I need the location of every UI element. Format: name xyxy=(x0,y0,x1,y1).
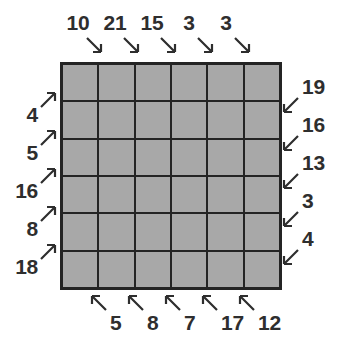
grid-cell[interactable] xyxy=(99,252,133,287)
arrow-southwest-icon xyxy=(281,133,301,153)
grid-cell[interactable] xyxy=(99,140,133,175)
grid-cell[interactable] xyxy=(208,252,242,287)
clue-number-right-4: 3 xyxy=(302,190,342,212)
arrow-northwest-icon xyxy=(237,293,257,313)
arrow-southeast-icon xyxy=(121,35,141,55)
grid-cell[interactable] xyxy=(245,102,279,137)
grid-cell[interactable] xyxy=(136,65,170,100)
clue-number-top-1: 10 xyxy=(58,12,98,34)
grid-cell[interactable] xyxy=(136,177,170,212)
arrow-southwest-icon xyxy=(281,95,301,115)
clue-number-right-3: 13 xyxy=(302,152,342,174)
clue-number-top-4: 3 xyxy=(169,12,209,34)
grid-cell[interactable] xyxy=(245,65,279,100)
grid-cell[interactable] xyxy=(245,177,279,212)
grid-cell[interactable] xyxy=(136,102,170,137)
arrow-southeast-icon xyxy=(158,35,178,55)
grid-cell[interactable] xyxy=(63,177,97,212)
grid-cell[interactable] xyxy=(245,140,279,175)
arrow-northeast-icon xyxy=(38,90,58,110)
grid-cell[interactable] xyxy=(208,102,242,137)
grid-cell[interactable] xyxy=(99,214,133,249)
grid-cell[interactable] xyxy=(172,214,206,249)
clue-number-bottom-4: 17 xyxy=(221,312,261,334)
puzzle-page: 10 21 15 3 3 4 5 16 8 18 19 16 13 3 4 5 … xyxy=(0,0,344,348)
clue-number-left-4: 8 xyxy=(2,218,38,240)
clue-number-left-1: 4 xyxy=(2,104,38,126)
arrow-northwest-icon xyxy=(89,293,109,313)
grid-cell[interactable] xyxy=(136,252,170,287)
clue-number-left-5: 18 xyxy=(2,256,38,278)
clue-number-right-2: 16 xyxy=(302,114,342,136)
grid-cell[interactable] xyxy=(208,214,242,249)
clue-number-bottom-3: 7 xyxy=(184,312,224,334)
grid-cell[interactable] xyxy=(172,252,206,287)
grid-cell[interactable] xyxy=(63,214,97,249)
grid-cell[interactable] xyxy=(208,177,242,212)
grid-cell[interactable] xyxy=(136,140,170,175)
grid-cell[interactable] xyxy=(136,214,170,249)
clue-number-left-3: 16 xyxy=(2,180,38,202)
arrow-northeast-icon xyxy=(38,128,58,148)
grid-cell[interactable] xyxy=(172,177,206,212)
grid-cell[interactable] xyxy=(172,65,206,100)
clue-number-bottom-2: 8 xyxy=(147,312,187,334)
grid-cell[interactable] xyxy=(245,252,279,287)
grid-cell[interactable] xyxy=(208,140,242,175)
clue-number-left-2: 5 xyxy=(2,142,38,164)
arrow-southeast-icon xyxy=(232,35,252,55)
grid-cell[interactable] xyxy=(63,140,97,175)
grid-cell[interactable] xyxy=(99,65,133,100)
grid-cell[interactable] xyxy=(245,214,279,249)
arrow-northwest-icon xyxy=(200,293,220,313)
arrow-northeast-icon xyxy=(38,166,58,186)
puzzle-grid xyxy=(60,62,282,290)
arrow-southeast-icon xyxy=(195,35,215,55)
grid-cell[interactable] xyxy=(99,177,133,212)
arrow-southwest-icon xyxy=(281,247,301,267)
arrow-northwest-icon xyxy=(163,293,183,313)
arrow-northeast-icon xyxy=(38,204,58,224)
clue-number-bottom-5: 12 xyxy=(258,312,298,334)
grid-cell[interactable] xyxy=(172,102,206,137)
clue-number-bottom-1: 5 xyxy=(110,312,150,334)
grid-cell[interactable] xyxy=(63,252,97,287)
grid-cell[interactable] xyxy=(63,102,97,137)
grid-cell[interactable] xyxy=(63,65,97,100)
arrow-southwest-icon xyxy=(281,171,301,191)
arrow-southwest-icon xyxy=(281,209,301,229)
arrow-northwest-icon xyxy=(126,293,146,313)
grid-cell[interactable] xyxy=(172,140,206,175)
clue-number-top-3: 15 xyxy=(132,12,172,34)
clue-number-right-1: 19 xyxy=(302,76,342,98)
arrow-northeast-icon xyxy=(38,242,58,262)
arrow-southeast-icon xyxy=(84,35,104,55)
clue-number-top-5: 3 xyxy=(206,12,246,34)
clue-number-right-5: 4 xyxy=(302,228,342,250)
grid-cell[interactable] xyxy=(99,102,133,137)
clue-number-top-2: 21 xyxy=(95,12,135,34)
grid-cell[interactable] xyxy=(208,65,242,100)
